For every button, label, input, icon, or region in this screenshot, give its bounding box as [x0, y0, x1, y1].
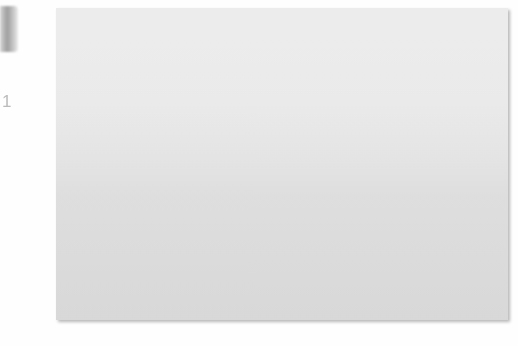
x-axis-labels — [56, 296, 508, 320]
chart-legend — [264, 186, 508, 290]
chart-screenshot: 1 — [0, 0, 518, 346]
y-axis-labels — [0, 8, 56, 338]
